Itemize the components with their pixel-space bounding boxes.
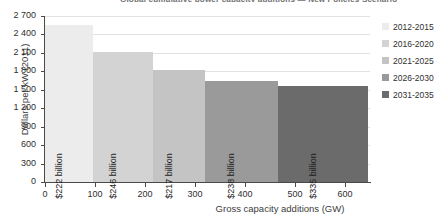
legend-label: 2016-2020 [393,39,434,49]
legend-item-2021-2025[interactable]: 2021-2025 [382,52,448,69]
x-tick-label: 600 [325,189,365,199]
legend: 2012-20152016-20202021-20252026-20302031… [382,18,448,103]
legend-item-2026-2030[interactable]: 2026-2030 [382,69,448,86]
legend-swatch-icon [382,23,389,30]
x-tick-label: 100 [75,189,115,199]
legend-label: 2026-2030 [393,73,434,83]
legend-label: 2012-2015 [393,22,434,32]
bar-2021-2025[interactable]: $217 billion [153,70,206,183]
legend-item-2012-2015[interactable]: 2012-2015 [382,18,448,35]
x-tick-mark [345,183,346,187]
x-tick-mark [195,183,196,187]
y-tick-label: 1 200 [0,102,36,112]
x-tick-mark [145,183,146,187]
legend-swatch-icon [382,74,389,81]
x-tick-mark [45,183,46,187]
chart-container: Global cumulative power capacity additio… [0,0,448,218]
x-axis-title: Gross capacity additions (GW) [150,203,410,214]
y-tick-label: 1 500 [0,84,36,94]
y-tick-label: 600 [0,139,36,149]
y-tick-label: 1 800 [0,65,36,75]
x-tick-mark [295,183,296,187]
plot-area: $222 billion$246 billion$217 billion$238… [45,16,370,182]
y-tick-label: 2 400 [0,28,36,38]
bar-2016-2020[interactable]: $246 billion [93,52,153,182]
y-tick-label: 2 700 [0,10,36,20]
y-tick-label: 900 [0,121,36,131]
x-tick-label: 0 [25,189,65,199]
legend-item-2016-2020[interactable]: 2016-2020 [382,35,448,52]
bar-2031-2035[interactable]: $335 billion [278,86,368,182]
legend-swatch-icon [382,91,389,98]
x-tick-label: 200 [125,189,165,199]
x-tick-label: 500 [275,189,315,199]
x-tick-label: 400 [225,189,265,199]
x-tick-mark [245,183,246,187]
y-tick-label: 300 [0,158,36,168]
legend-label: 2021-2025 [393,56,434,66]
y-tick-label: 2 100 [0,47,36,57]
bar-2012-2015[interactable]: $222 billion [45,25,93,182]
legend-label: 2031-2035 [393,90,434,100]
legend-swatch-icon [382,40,389,47]
x-tick-mark [95,183,96,187]
legend-swatch-icon [382,57,389,64]
legend-item-2031-2035[interactable]: 2031-2035 [382,86,448,103]
x-tick-label: 300 [175,189,215,199]
chart-title: Global cumulative power capacity additio… [120,0,448,2]
y-tick-label: 0 [0,176,36,186]
bar-2026-2030[interactable]: $238 billion [205,81,278,182]
